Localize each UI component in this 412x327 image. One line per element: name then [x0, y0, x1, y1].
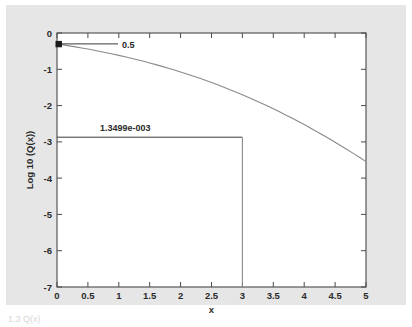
x-tick-label: 3	[240, 290, 245, 301]
x-tick-label: 4.5	[328, 290, 342, 301]
figure-caption: 1.3 Q(x)	[8, 314, 41, 325]
x-tick-label: 0	[54, 290, 59, 301]
x-tick-label: 1.5	[143, 290, 157, 301]
y-tick-label: -5	[44, 209, 53, 220]
x-tick-label: 1	[116, 290, 122, 301]
x-tick-label: 5	[363, 290, 369, 301]
y-tick-label: 0	[47, 28, 52, 39]
annotation-q3-label: 1.3499e-003	[100, 123, 151, 133]
x-tick-label: 0.5	[81, 290, 95, 301]
y-tick-label: -6	[44, 245, 52, 256]
x-tick-labels: 0 0.5 1 1.5 2 2.5 3 3.5 4 4.5 5	[54, 290, 369, 301]
plot-area-background	[57, 33, 366, 287]
x-tick-label: 2	[178, 290, 183, 301]
annotation-q0-label: 0.5	[122, 40, 135, 50]
x-tick-label: 3.5	[267, 290, 281, 301]
plot-canvas: 0.5 1.3499e-003 0 0.5 1 1.5 2 2.5 3 3.5 …	[0, 0, 412, 327]
y-tick-label: -2	[44, 100, 52, 111]
y-tick-label: -3	[44, 136, 52, 147]
y-axis-title: Log 10 (Q(x))	[24, 131, 35, 190]
y-tick-label: -1	[44, 64, 53, 75]
x-tick-label: 2.5	[205, 290, 219, 301]
y-tick-label: -4	[44, 173, 53, 184]
annotation-q0-marker	[56, 41, 61, 46]
y-tick-labels: 0 -1 -2 -3 -4 -5 -6 -7	[44, 28, 53, 293]
figure-container: 0.5 1.3499e-003 0 0.5 1 1.5 2 2.5 3 3.5 …	[0, 0, 412, 327]
x-tick-label: 4	[302, 290, 308, 301]
x-axis-title: x	[209, 304, 215, 315]
y-tick-label: -7	[44, 282, 52, 293]
